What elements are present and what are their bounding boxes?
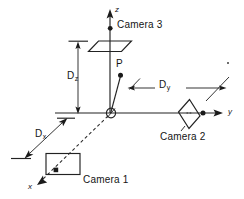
- camera-coordinate-diagram: z y x P Camera 3 Camera 2 Camera 1 Dz Dy…: [0, 0, 244, 199]
- z-axis: [107, 9, 114, 113]
- axis-label-x: x: [28, 183, 32, 191]
- camera-2-plane: [179, 100, 206, 132]
- dimension-dz-subscript: z: [74, 75, 78, 82]
- dimension-label-dx: Dx: [35, 129, 46, 140]
- camera-1-plane: [46, 154, 80, 175]
- dimension-label-dz: Dz: [67, 71, 78, 82]
- camera-3-label: Camera 3: [117, 20, 163, 30]
- point-label-p: P: [116, 59, 123, 69]
- axis-label-y: y: [228, 108, 232, 116]
- scan-speck: [227, 62, 229, 64]
- dimension-label-dy: Dy: [159, 80, 170, 91]
- point-p-ray: [111, 73, 123, 114]
- camera-1-label: Camera 1: [83, 175, 129, 185]
- dimension-dy: [128, 77, 230, 101]
- dimension-dx-subscript: x: [42, 133, 46, 140]
- camera-2-label: Camera 2: [160, 132, 206, 142]
- dimension-dy-subscript: y: [166, 84, 170, 91]
- axis-label-z: z: [115, 6, 119, 14]
